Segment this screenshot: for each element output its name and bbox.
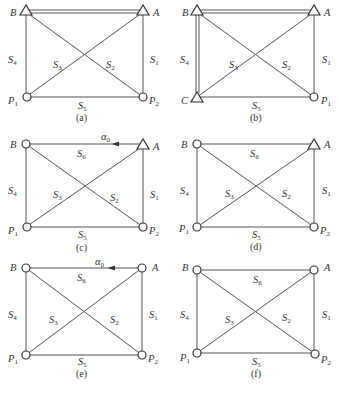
label-s2: S2 <box>282 59 291 72</box>
label-s4: S4 <box>8 309 17 322</box>
label-s6: S6 <box>77 272 86 285</box>
label-s4: S4 <box>180 309 189 322</box>
circle-icon <box>310 223 318 231</box>
panel-c: B A P1 P2 α0 S6 S4 S1 S3 S2 S5 (c) <box>7 131 160 254</box>
label-b: B <box>10 7 17 18</box>
panel-a: B A P1 P2 S4 S1 S3 S2 S5 (a) <box>7 5 160 124</box>
label-a: A <box>152 7 160 18</box>
label-p2: P2 <box>319 225 330 238</box>
label-s4: S4 <box>8 185 17 198</box>
label-a: A <box>151 262 159 273</box>
label-s3: S3 <box>53 59 62 72</box>
circle-icon <box>138 351 146 359</box>
caption-d: (d) <box>250 241 262 253</box>
label-alpha0: α0 <box>101 131 111 144</box>
label-s1: S1 <box>149 309 158 322</box>
label-p2: P2 <box>148 225 159 238</box>
label-p1: P1 <box>7 353 18 366</box>
panel-f: B A P1 P2 S6 S4 S1 S3 S2 S5 (f) <box>179 262 331 380</box>
circle-icon <box>139 223 147 231</box>
label-s1: S1 <box>322 54 331 67</box>
circle-icon <box>193 266 201 274</box>
label-c: C <box>181 95 189 106</box>
label-b: B <box>10 139 17 150</box>
label-s5: S5 <box>78 229 87 242</box>
label-s1: S1 <box>150 189 159 202</box>
caption-a: (a) <box>76 112 87 124</box>
label-p2: P2 <box>320 354 331 367</box>
label-s3: S3 <box>225 188 234 201</box>
label-s2: S2 <box>110 314 119 327</box>
label-s1: S1 <box>150 54 159 67</box>
label-s3: S3 <box>53 189 62 202</box>
label-p1: P1 <box>179 352 190 365</box>
label-p2: P2 <box>147 353 158 366</box>
figure-canvas: B A P1 P2 S4 S1 S3 S2 S5 (a) B A C P1 S4… <box>0 0 339 393</box>
label-a: A <box>152 141 160 152</box>
label-p2: P2 <box>148 95 159 108</box>
circle-icon <box>22 264 30 272</box>
circle-icon <box>22 351 30 359</box>
label-s1: S1 <box>322 309 331 322</box>
caption-e: (e) <box>76 368 87 380</box>
label-a: A <box>323 7 331 18</box>
label-s2: S2 <box>110 192 119 205</box>
circle-icon <box>138 264 146 272</box>
arrow-left-icon <box>108 266 115 271</box>
label-s4: S4 <box>8 54 17 67</box>
label-s2: S2 <box>282 188 291 201</box>
label-b: B <box>10 262 17 273</box>
circle-icon <box>193 140 201 148</box>
circle-icon <box>139 93 147 101</box>
label-s4: S4 <box>180 185 189 198</box>
label-s3: S3 <box>229 59 238 72</box>
panel-b: B A C P1 S4 S1 S3 S2 S5 (b) <box>180 5 331 124</box>
label-b: B <box>181 139 188 150</box>
panel-d: B A P1 P2 S6 S4 S1 S3 S2 S5 (d) <box>178 139 331 253</box>
label-p1: P1 <box>320 95 331 108</box>
label-p1: P1 <box>7 95 18 108</box>
caption-c: (c) <box>76 242 87 254</box>
arrow-left-icon <box>112 142 119 147</box>
circle-icon <box>193 223 201 231</box>
circle-icon <box>193 349 201 357</box>
label-s6: S6 <box>250 148 259 161</box>
circle-icon <box>311 350 319 358</box>
caption-f: (f) <box>251 368 261 380</box>
label-b: B <box>182 262 189 273</box>
label-s6: S6 <box>253 274 262 287</box>
circle-icon <box>23 93 31 101</box>
circle-icon <box>310 266 318 274</box>
label-a: A <box>323 262 331 273</box>
label-p1: P1 <box>7 225 18 238</box>
circle-icon <box>23 223 31 231</box>
circle-icon <box>310 93 318 101</box>
label-s4: S4 <box>180 54 189 67</box>
label-p1: P1 <box>178 223 189 236</box>
label-s6: S6 <box>77 148 86 161</box>
label-s3: S3 <box>225 314 234 327</box>
circle-icon <box>22 140 30 148</box>
label-b: B <box>182 7 189 18</box>
label-s2: S2 <box>282 312 291 325</box>
label-alpha0: α0 <box>95 256 105 269</box>
panel-e: B A P1 P2 α0 S6 S4 S1 S3 S2 S5 (e) <box>7 256 159 380</box>
label-s3: S3 <box>49 314 58 327</box>
label-s1: S1 <box>322 185 331 198</box>
label-a: A <box>323 139 331 150</box>
caption-b: (b) <box>250 112 262 124</box>
label-s2: S2 <box>106 59 115 72</box>
